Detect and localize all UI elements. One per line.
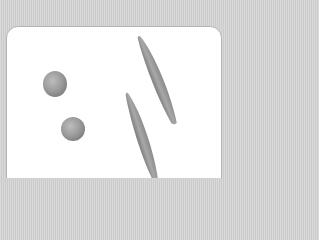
cell-illustration: [0, 0, 230, 178]
spindle-cell-upper: [135, 34, 181, 126]
round-cell-upper: [43, 71, 67, 97]
spindle-cell-lower: [123, 91, 162, 178]
round-cell-lower: [61, 117, 85, 141]
